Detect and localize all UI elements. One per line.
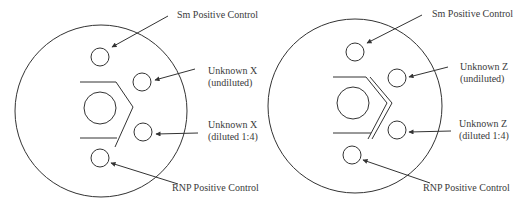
arrow-sm-control (367, 15, 422, 43)
label-unknown-undiluted-name: Unknown X (208, 65, 258, 76)
plate-left: Sm Positive Control Unknown X (undiluted… (15, 9, 259, 197)
arrow-unknown-undiluted (409, 67, 448, 77)
label-unknown-undiluted-name: Unknown Z (460, 61, 508, 72)
arrow-unknown-diluted (409, 131, 451, 132)
label-rnp-control: RNP Positive Control (172, 182, 259, 193)
label-sm-control: Sm Positive Control (177, 9, 258, 20)
trough-outline-upper-inner (333, 77, 387, 139)
label-sm-control: Sm Positive Control (432, 8, 513, 19)
well-unknown-diluted (388, 121, 406, 139)
well-rnp-control (343, 146, 361, 164)
label-unknown-diluted-note: (diluted 1:4) (208, 131, 258, 143)
center-well (84, 92, 116, 124)
label-unknown-diluted-note: (diluted 1:4) (459, 130, 509, 142)
label-unknown-diluted-name: Unknown Z (459, 118, 507, 129)
center-well (337, 87, 369, 119)
label-rnp-control: RNP Positive Control (423, 182, 510, 193)
well-unknown-diluted (134, 123, 152, 141)
immunodiffusion-diagram: Sm Positive Control Unknown X (undiluted… (0, 0, 517, 204)
well-sm-control (346, 43, 364, 61)
label-unknown-undiluted-note: (undiluted) (460, 73, 504, 85)
label-unknown-diluted-name: Unknown X (208, 119, 258, 130)
agar-plate-outline (268, 19, 442, 193)
well-sm-control (91, 48, 109, 66)
well-unknown-undiluted (133, 73, 151, 91)
plate-right: Sm Positive Control Unknown Z (undiluted… (268, 8, 513, 193)
well-unknown-undiluted (388, 69, 406, 87)
agar-plate-outline (15, 25, 187, 197)
arrow-rnp-control (111, 163, 178, 184)
arrow-unknown-diluted (156, 133, 198, 134)
well-rnp-control (91, 149, 109, 167)
arrow-unknown-undiluted (155, 69, 195, 80)
trough-outline-upper (80, 82, 133, 147)
arrow-sm-control (112, 16, 168, 47)
label-unknown-undiluted-note: (undiluted) (208, 77, 252, 89)
